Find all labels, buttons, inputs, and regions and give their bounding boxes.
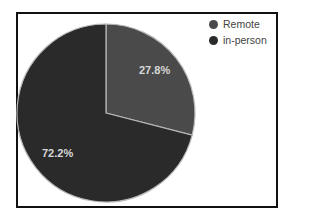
legend-label: Remote (223, 18, 260, 30)
slice-label-remote: 27.8% (139, 64, 170, 76)
legend-label: in-person (223, 34, 267, 46)
legend-swatch-in-person-icon (209, 36, 218, 45)
legend-item-in-person: in-person (209, 32, 267, 48)
legend-item-remote: Remote (209, 16, 267, 32)
slice-label-in-person: 72.2% (42, 147, 73, 159)
legend: Remote in-person (209, 16, 267, 48)
legend-swatch-remote-icon (209, 20, 218, 29)
